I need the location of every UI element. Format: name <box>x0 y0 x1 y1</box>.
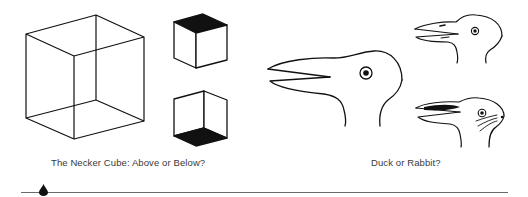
necker-cube-caption: The Necker Cube: Above or Below? <box>51 157 205 168</box>
duck-icon <box>415 15 502 63</box>
pupil-icon <box>363 70 369 76</box>
duck-rabbit-drawings <box>264 0 528 175</box>
rabbit-icon <box>416 98 504 147</box>
section-divider-rule <box>21 192 508 193</box>
necker-cube-figure: The Necker Cube: Above or Below? <box>0 0 264 175</box>
teardrop-icon <box>39 184 48 196</box>
duck-rabbit-caption: Duck or Rabbit? <box>371 157 441 168</box>
duck-rabbit-figure: Duck or Rabbit? <box>264 0 528 175</box>
rabbit-ear-shading <box>424 105 460 111</box>
rabbit-nose-icon <box>501 116 503 118</box>
cube-from-below-icon <box>174 91 227 146</box>
wireframe-cube-icon <box>26 15 144 139</box>
necker-cube-drawings <box>0 0 264 175</box>
duck-rabbit-head-icon <box>268 51 402 126</box>
cube-from-above-icon <box>174 14 227 68</box>
